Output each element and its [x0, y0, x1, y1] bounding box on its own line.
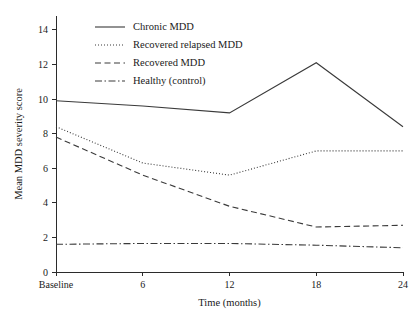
x-tick-label: 6 — [140, 279, 145, 290]
x-tick-label: 18 — [311, 279, 321, 290]
legend-label: Recovered relapsed MDD — [133, 39, 243, 50]
series-line-chronic-mdd — [56, 63, 403, 127]
y-tick-label: 6 — [43, 163, 48, 174]
legend-label: Recovered MDD — [133, 57, 205, 68]
x-axis-title: Time (months) — [198, 297, 261, 309]
chart-series-group — [56, 63, 403, 248]
chart-legend: Chronic MDDRecovered relapsed MDDRecover… — [95, 21, 243, 87]
chart-axes — [56, 16, 403, 272]
y-tick-label: 8 — [43, 128, 48, 139]
chart-canvas: 02468101214 Baseline6121824 Chronic MDDR… — [0, 0, 420, 320]
y-tick-label: 2 — [43, 232, 48, 243]
y-axis-title: Mean MDD severity score — [13, 88, 24, 200]
y-tick-label: 0 — [43, 267, 48, 278]
legend-label: Chronic MDD — [133, 21, 194, 32]
y-tick-label: 4 — [43, 197, 48, 208]
mdd-severity-line-chart: 02468101214 Baseline6121824 Chronic MDDR… — [0, 0, 420, 320]
y-tick-label: 10 — [38, 94, 48, 105]
y-tick-label: 12 — [38, 59, 48, 70]
series-line-healthy-control — [56, 243, 403, 247]
y-axis-ticks: 02468101214 — [38, 24, 56, 277]
series-line-recovered-relapsed-mdd — [56, 127, 403, 175]
x-tick-label: 24 — [398, 279, 408, 290]
legend-label: Healthy (control) — [133, 75, 206, 87]
x-tick-label: Baseline — [39, 279, 74, 290]
x-tick-label: 12 — [225, 279, 235, 290]
y-tick-label: 14 — [38, 24, 48, 35]
x-axis-ticks: Baseline6121824 — [39, 272, 408, 290]
